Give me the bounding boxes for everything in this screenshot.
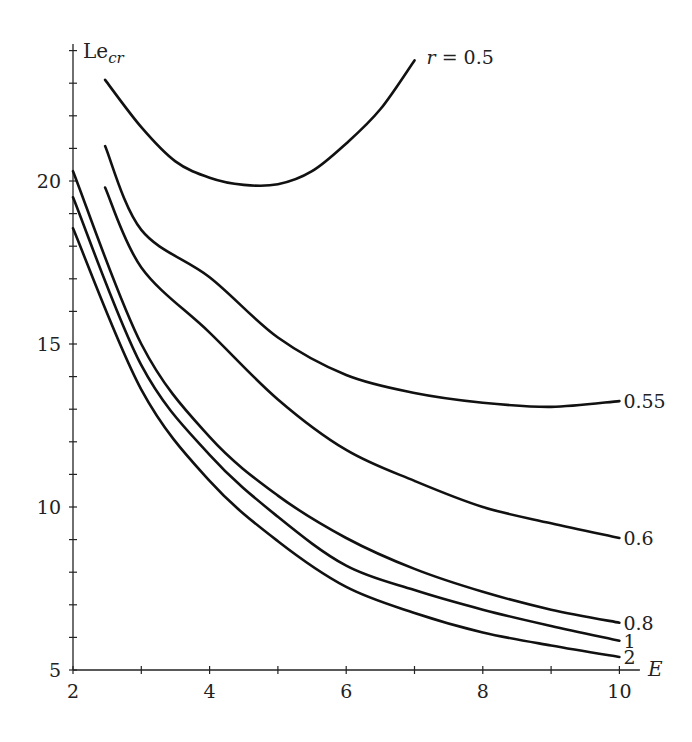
series-label: r = 0.5	[427, 46, 494, 68]
curve-series-5	[73, 228, 619, 657]
curve-series-0	[105, 60, 414, 185]
series-label: 0.55	[623, 390, 665, 412]
y-tick-label: 15	[37, 333, 61, 355]
series-label: 2	[623, 646, 635, 668]
y-axis-title: Lecr	[83, 39, 125, 67]
x-tick-label: 10	[607, 680, 631, 702]
curve-series-3	[73, 171, 619, 623]
x-tick-label: 2	[67, 680, 79, 702]
x-tick-label: 6	[340, 680, 352, 702]
y-tick-label: 20	[37, 170, 61, 192]
curve-series-4	[73, 197, 619, 640]
x-tick-label: 8	[477, 680, 489, 702]
x-axis-title: E	[647, 657, 663, 681]
x-tick-label: 4	[204, 680, 216, 702]
series-labels: r = 0.50.550.60.812	[427, 46, 666, 668]
curve-series-1	[105, 146, 619, 407]
chart: 2468105101520LecrE r = 0.50.550.60.812	[0, 0, 692, 742]
series-label: 0.6	[623, 527, 653, 549]
curves	[73, 60, 619, 657]
curve-series-2	[105, 188, 619, 539]
y-tick-label: 10	[37, 496, 61, 518]
y-tick-label: 5	[49, 659, 61, 681]
